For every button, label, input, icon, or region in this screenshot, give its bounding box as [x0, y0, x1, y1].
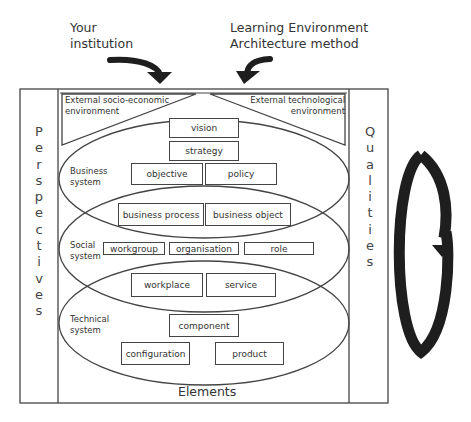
- perspectives-letter: e: [29, 140, 49, 156]
- service-box: service: [206, 273, 276, 297]
- business-process-box: business process: [118, 203, 204, 226]
- technological-label: External technological environment: [250, 95, 345, 117]
- perspectives-letter: e: [29, 287, 49, 303]
- qualities-letter: t: [360, 205, 380, 221]
- qualities-letter: a: [360, 157, 380, 173]
- qualities-letter: l: [360, 173, 380, 189]
- perspectives-letter: v: [29, 271, 49, 287]
- social-system-line2: system: [70, 251, 101, 262]
- strategy-box: strategy: [169, 141, 239, 161]
- technological-line2: environment: [250, 106, 345, 117]
- business-system-line1: Business: [70, 166, 107, 177]
- qualities-letter: i: [360, 189, 380, 205]
- perspectives-letter: s: [29, 303, 49, 319]
- vision-box: vision: [169, 118, 239, 138]
- configuration-box: configuration: [121, 342, 190, 365]
- perspectives-letter: p: [29, 189, 49, 205]
- perspectives-letter: P: [29, 124, 49, 140]
- perspectives-letter: c: [29, 222, 49, 238]
- business-object-box: business object: [205, 203, 291, 226]
- method-label: Learning Environment Architecture method: [230, 20, 368, 52]
- perspectives-letter: t: [29, 238, 49, 254]
- cycle-arrow-icon: [399, 155, 452, 352]
- qualities-letter: s: [360, 254, 380, 270]
- social-system-label: Social system: [70, 240, 101, 262]
- technical-system-line1: Technical: [70, 314, 109, 325]
- institution-label-line1: Your: [70, 20, 133, 36]
- qualities-label: Q u a l i t i e s: [360, 124, 380, 271]
- organisation-box: organisation: [169, 242, 239, 255]
- method-label-line1: Learning Environment: [230, 20, 368, 36]
- perspectives-letter: e: [29, 205, 49, 221]
- objective-box: objective: [131, 163, 203, 185]
- perspectives-label: P e r s p e c t i v e s: [29, 124, 49, 320]
- institution-arrow-icon: [110, 60, 172, 84]
- qualities-letter: i: [360, 222, 380, 238]
- elements-label: Elements: [178, 384, 236, 399]
- perspectives-letter: r: [29, 157, 49, 173]
- method-arrow-icon: [236, 59, 270, 84]
- socio-economic-label: External socio-economic environment: [65, 95, 169, 117]
- institution-label: Your institution: [70, 20, 133, 52]
- qualities-letter: Q: [360, 124, 380, 140]
- perspectives-letter: s: [29, 173, 49, 189]
- business-system-line2: system: [70, 177, 107, 188]
- component-box: component: [169, 314, 239, 337]
- qualities-letter: u: [360, 140, 380, 156]
- technological-line1: External technological: [250, 95, 345, 106]
- socio-economic-line2: environment: [65, 106, 169, 117]
- business-system-label: Business system: [70, 166, 107, 188]
- technical-system-label: Technical system: [70, 314, 109, 336]
- method-label-line2: Architecture method: [230, 36, 368, 52]
- socio-economic-line1: External socio-economic: [65, 95, 169, 106]
- qualities-letter: e: [360, 238, 380, 254]
- product-box: product: [215, 342, 284, 365]
- policy-box: policy: [205, 163, 277, 185]
- workplace-box: workplace: [131, 273, 203, 297]
- role-box: role: [244, 242, 314, 255]
- workgroup-box: workgroup: [103, 242, 165, 255]
- perspectives-letter: i: [29, 254, 49, 270]
- social-system-line1: Social: [70, 240, 101, 251]
- technical-system-line2: system: [70, 325, 109, 336]
- institution-label-line2: institution: [70, 36, 133, 52]
